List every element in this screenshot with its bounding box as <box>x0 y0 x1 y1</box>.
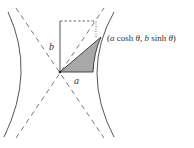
point-label: (a cosh θ, b sinh θ) <box>107 33 176 43</box>
hyperbolic-sector-shaded <box>60 37 101 72</box>
hyperbola-diagram: b a (a cosh θ, b sinh θ) <box>0 0 194 148</box>
hyperbola-left-branch <box>4 12 21 137</box>
label-b: b <box>49 41 54 52</box>
origin-point <box>59 71 62 74</box>
hyperbola-right-branch <box>97 12 114 137</box>
label-a: a <box>74 75 79 86</box>
